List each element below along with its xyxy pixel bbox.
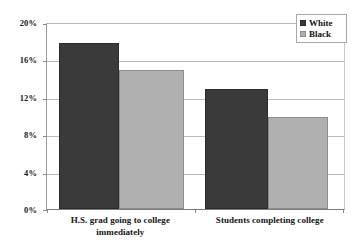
y-axis-labels: 20% 16% 12% 8% 4% 0%: [0, 0, 42, 251]
legend-item-black[interactable]: Black: [300, 28, 343, 39]
y-tick-label: 8%: [24, 131, 37, 140]
legend-swatch-icon-black: [300, 31, 306, 37]
bar-group0-black[interactable]: [119, 70, 183, 209]
y-tick-label: 20%: [20, 19, 37, 28]
legend-swatch-icon-white: [300, 20, 306, 26]
x-category-label-0-line1: H.S. grad going to college: [46, 215, 195, 227]
x-axis-labels: H.S. grad going to college immediately S…: [46, 215, 345, 249]
x-category-label-1: Students completing college: [195, 215, 345, 227]
y-tick-label: 4%: [24, 168, 37, 177]
plot-area: [46, 23, 345, 210]
legend-label-black: Black: [309, 29, 331, 39]
x-category-label-1-line1: Students completing college: [195, 215, 345, 227]
bar-group1-white[interactable]: [205, 89, 268, 209]
x-tick-mark: [343, 209, 344, 213]
bar-group0-white[interactable]: [59, 43, 120, 210]
legend-label-white: White: [309, 18, 333, 28]
y-tick-label: 0%: [24, 206, 37, 215]
x-tick-mark: [47, 209, 48, 213]
y-tick-label: 16%: [20, 56, 37, 65]
x-tick-mark: [195, 209, 196, 213]
bars-layer: [47, 24, 344, 209]
bar-group1-black[interactable]: [268, 117, 329, 210]
x-category-label-0-line2: immediately: [46, 227, 195, 239]
y-tick-label: 12%: [20, 93, 37, 102]
legend: White Black: [296, 14, 347, 43]
bar-chart: 20% 16% 12% 8% 4% 0% H: [0, 0, 357, 251]
x-category-label-0: H.S. grad going to college immediately: [46, 215, 195, 238]
legend-item-white[interactable]: White: [300, 17, 343, 28]
